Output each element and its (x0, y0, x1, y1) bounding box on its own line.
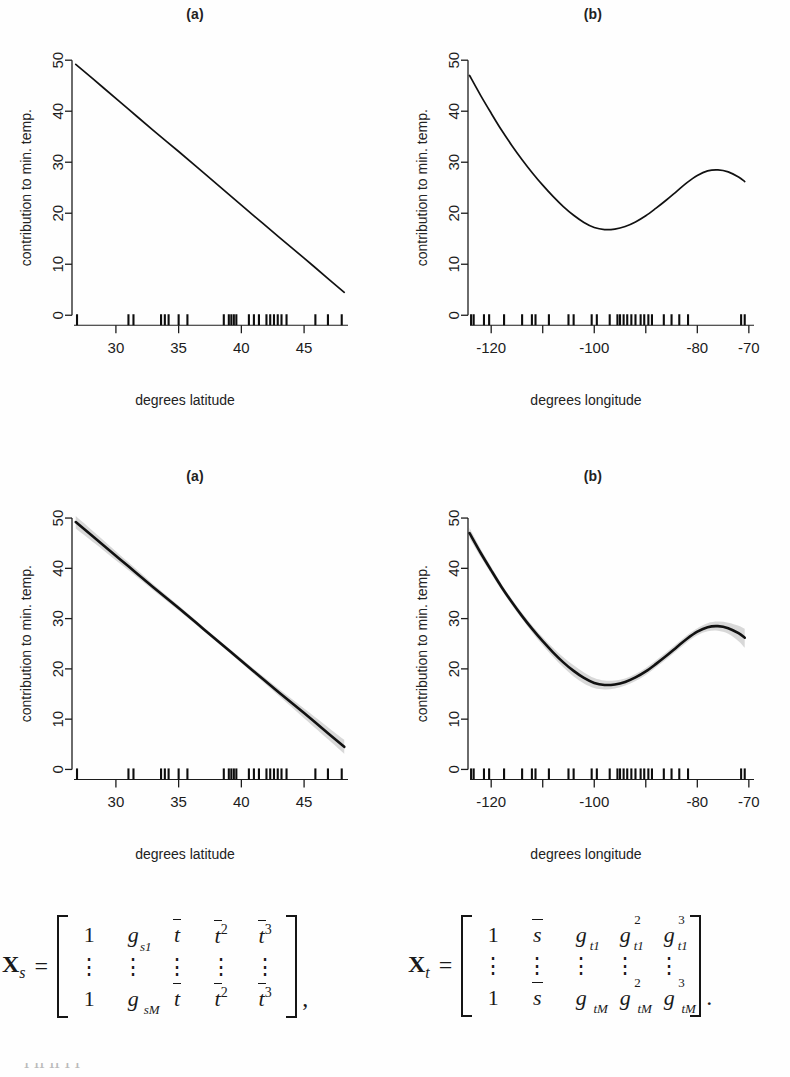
equation-Xt-matrix: 1 s gt1 g2t1 g3t1 ⋮ ⋮ ⋮ ⋮ ⋮ 1 (461, 915, 701, 1017)
ytick-label: 0 (446, 765, 463, 773)
xtick-label: -100 (579, 339, 609, 356)
matrix-cell: t (155, 982, 199, 1014)
matrix-cell: gt1 (559, 919, 603, 950)
yaxis-label: contribution to min. temp. (18, 109, 34, 266)
ytick-label: 50 (50, 52, 67, 69)
ytick-label: 10 (446, 711, 463, 728)
xtick-label: -120 (476, 339, 506, 356)
matrix-cell: g2tM (603, 982, 647, 1013)
ytick-label: 0 (50, 311, 67, 319)
matrix-cell: ⋮ (471, 950, 515, 981)
ytick-label: 40 (446, 560, 463, 577)
matrix-cell: ⋮ (155, 951, 199, 982)
ytick-label: 0 (446, 311, 463, 319)
yaxis-label: contribution to min. temp. (414, 109, 430, 266)
equation-Xt-equals: = (439, 952, 453, 979)
equation-Xt-trailing-period: . (706, 984, 712, 1017)
matrix-cell: ⋮ (199, 951, 243, 982)
ytick-label: 20 (446, 661, 463, 678)
fitted-curve (470, 76, 745, 230)
matrix-cell: ⋮ (515, 950, 559, 981)
matrix-cell: t2 (199, 919, 243, 951)
xtick-label: 45 (296, 793, 313, 810)
matrix-row: ⋮ ⋮ ⋮ ⋮ ⋮ (471, 950, 691, 981)
ytick-label: 20 (50, 205, 67, 222)
xaxis-label-row1-b: degrees longitude (416, 392, 756, 408)
xtick-label: -80 (686, 339, 708, 356)
xtick-label: 40 (233, 339, 250, 356)
chart-row1-a: 01020304050contribution to min. temp.303… (0, 28, 390, 428)
matrix-cell: gsM (111, 982, 155, 1014)
matrix-cell: 1 (471, 919, 515, 950)
matrix-cell: t2 (199, 982, 243, 1014)
ytick-label: 30 (446, 154, 463, 171)
matrix-cell: g3t1 (647, 919, 691, 950)
matrix-cell: gs1 (111, 919, 155, 951)
equation-Xs-trailing-comma: , (302, 985, 308, 1018)
ytick-label: 30 (50, 610, 67, 627)
xtick-label: 40 (233, 793, 250, 810)
xtick-label: 30 (108, 793, 125, 810)
equation-Xs: Xs = 1 gs1 t t2 t3 ⋮ ⋮ ⋮ ⋮ (2, 915, 308, 1018)
matrix-cell: t (155, 919, 199, 951)
chart-row2-a: 01020304050contribution to min. temp.303… (0, 490, 390, 880)
matrix-cell: ⋮ (243, 951, 287, 982)
matrix-row: 1 s gt1 g2t1 g3t1 (471, 919, 691, 950)
ytick-label: 20 (446, 205, 463, 222)
equation-Xs-lhs: Xs (2, 951, 26, 982)
xtick-label: -80 (686, 793, 708, 810)
xtick-label: -100 (579, 793, 609, 810)
equation-Xs-equals: = (35, 953, 49, 980)
matrix-cell: g3tM (647, 982, 691, 1013)
matrix-cell: 1 (67, 919, 111, 951)
figure-page: (a) 01020304050contribution to min. temp… (0, 0, 790, 1077)
xtick-label: -70 (738, 793, 760, 810)
panel-title-row2-a: (a) (0, 468, 390, 484)
equation-Xt: Xt = 1 s gt1 g2t1 g3t1 ⋮ ⋮ ⋮ ⋮ (408, 915, 712, 1017)
ytick-label: 50 (446, 52, 463, 69)
chart-row1-b: 01020304050contribution to min. temp.-12… (396, 28, 790, 428)
panel-title-row2-b: (b) (396, 468, 790, 484)
panel-title-row1-a: (a) (0, 6, 390, 22)
matrix-cell: 1 (67, 982, 111, 1014)
fitted-curve (76, 522, 344, 747)
ytick-label: 40 (50, 103, 67, 120)
matrix-cell: gtM (559, 982, 603, 1013)
ytick-label: 50 (446, 510, 463, 527)
ytick-label: 40 (50, 560, 67, 577)
confidence-band (470, 528, 745, 689)
bottom-cut-text-row: i li li l l (0, 1063, 790, 1077)
ytick-label: 30 (446, 610, 463, 627)
matrix-row: 1 gsM t t2 t3 (67, 982, 287, 1014)
xtick-label: -70 (738, 339, 760, 356)
matrix-row: ⋮ ⋮ ⋮ ⋮ ⋮ (67, 951, 287, 982)
fitted-curve (76, 64, 344, 292)
panel-row2-a: (a) 01020304050contribution to min. temp… (0, 462, 390, 882)
matrix-cell: t3 (243, 982, 287, 1014)
matrix-cell: t3 (243, 919, 287, 951)
panel-row1-a: (a) 01020304050contribution to min. temp… (0, 0, 390, 440)
matrix-row: 1 s gtM g2tM g3tM (471, 982, 691, 1013)
xtick-label: 35 (170, 793, 187, 810)
ytick-label: 40 (446, 103, 463, 120)
xtick-label: 35 (170, 339, 187, 356)
matrix-cell: g2t1 (603, 919, 647, 950)
matrix-cell: s (515, 982, 559, 1013)
ytick-label: 10 (446, 256, 463, 273)
xaxis-label-row2-b: degrees longitude (416, 846, 756, 862)
equation-Xt-lhs: Xt (408, 951, 430, 982)
yaxis-label: contribution to min. temp. (18, 565, 34, 722)
equation-Xs-matrix: 1 gs1 t t2 t3 ⋮ ⋮ ⋮ ⋮ ⋮ 1 (57, 915, 297, 1018)
ytick-label: 30 (50, 154, 67, 171)
xtick-label: -120 (476, 793, 506, 810)
yaxis-label: contribution to min. temp. (414, 565, 430, 722)
ytick-label: 50 (50, 510, 67, 527)
ytick-label: 10 (50, 256, 67, 273)
fitted-curve (470, 533, 745, 685)
matrix-cell: s (515, 919, 559, 950)
xtick-label: 45 (296, 339, 313, 356)
chart-row2-b: 01020304050contribution to min. temp.-12… (396, 490, 790, 880)
matrix-cell: 1 (471, 982, 515, 1013)
matrix-cell: ⋮ (111, 951, 155, 982)
equation-row: Xs = 1 gs1 t t2 t3 ⋮ ⋮ ⋮ ⋮ (0, 905, 790, 1055)
